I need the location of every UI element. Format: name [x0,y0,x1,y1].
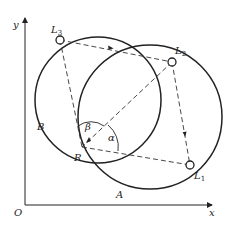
label-alpha: α [108,133,115,143]
station-l1-marker [186,161,194,169]
label-circle-a: A [116,190,123,200]
label-l3: L3 [51,25,62,37]
triangulation-diagram: y x O L3 L2 L1 R B A β α [0,0,228,233]
station-l3-marker [56,36,64,44]
label-r: R [74,153,82,163]
y-axis-label: y [13,20,19,30]
diagram-graphics [0,0,228,233]
circle-a [78,45,222,189]
label-l1: L1 [194,171,205,183]
line-l3-r [60,40,82,147]
x-axis-label: x [209,208,215,218]
angle-beta-arc [78,122,104,126]
line-l2-r [82,62,172,147]
station-l2-marker [168,58,176,66]
label-l2: L2 [175,46,186,58]
line-l3-l2 [60,40,172,62]
line-l2-l1 [172,62,190,165]
label-beta: β [85,122,91,132]
label-circle-b: B [37,122,44,132]
origin-label: O [14,208,22,218]
arrow-head-3 [86,137,91,143]
